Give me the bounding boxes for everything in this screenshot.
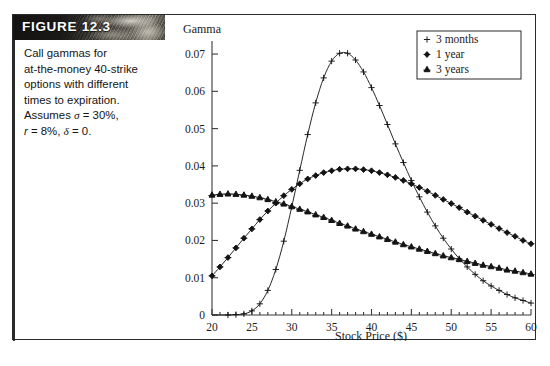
data-point: [520, 297, 526, 303]
marker-plus-glyph: [488, 283, 494, 289]
data-point: [352, 166, 359, 172]
marker-plus-glyph: [392, 141, 398, 147]
data-point: [528, 300, 534, 306]
y-axis-title: Gamma: [183, 22, 222, 36]
marker-plus-glyph: [416, 194, 422, 200]
data-point: [400, 178, 407, 184]
data-point: [265, 287, 271, 293]
data-point: [249, 308, 255, 314]
x-axis-tick-label: 45: [406, 321, 418, 333]
data-point: [336, 166, 343, 172]
y-axis-tick-label: 0.03: [185, 197, 205, 209]
data-point: [312, 173, 319, 179]
data-point: [504, 291, 510, 297]
data-point: [225, 255, 232, 261]
legend-label: 3 months: [436, 33, 479, 45]
y-axis-tick-label: 0: [199, 309, 205, 321]
marker-plus-glyph: [496, 287, 502, 293]
data-point: [328, 168, 335, 174]
data-point: [440, 235, 446, 241]
x-axis-tick-label: 50: [446, 321, 458, 333]
marker-plus-glyph: [504, 291, 510, 297]
data-point: [416, 194, 422, 200]
data-point: [281, 238, 287, 244]
data-point: [344, 166, 351, 172]
marker-plus-glyph: [225, 312, 231, 318]
x-axis-title: Stock Price ($): [335, 329, 407, 341]
assumes-word: Assumes: [24, 109, 74, 121]
data-point: [360, 69, 366, 75]
data-point: [464, 209, 471, 215]
data-point: [248, 226, 255, 232]
series-1-year: [209, 166, 535, 279]
data-point: [273, 266, 279, 272]
data-point: [432, 192, 439, 198]
data-point: [424, 209, 430, 215]
data-point: [241, 311, 247, 317]
series-3-months: [212, 50, 534, 318]
series-layer: [208, 50, 534, 318]
x-axis-tick-label: 30: [286, 321, 298, 333]
y-axis-ticks: 00.010.020.030.040.050.060.07: [185, 48, 218, 321]
data-point: [344, 50, 350, 56]
data-point: [376, 170, 383, 176]
marker-plus-glyph: [528, 300, 534, 306]
marker-plus-glyph: [305, 131, 311, 137]
data-point: [512, 295, 518, 301]
data-point: [337, 50, 343, 56]
data-point: [224, 191, 231, 196]
data-point: [488, 222, 495, 228]
marker-plus-glyph: [321, 75, 327, 81]
y-axis-tick-label: 0.06: [185, 85, 205, 97]
r-value: = 8%,: [28, 125, 64, 137]
y-axis-tick-label: 0.05: [185, 123, 205, 135]
figure-number-label: FIGURE 12.3: [22, 19, 111, 34]
figure-caption-block: FIGURE 12.3 Call gammas for at-the-money…: [13, 15, 165, 341]
delta-value: = 0.: [69, 125, 91, 137]
gamma-chart: Gamma 00.010.020.030.040.050.060.07 2025…: [165, 15, 537, 341]
data-point: [392, 141, 398, 147]
y-axis-tick-label: 0.02: [185, 234, 205, 246]
data-point: [432, 223, 438, 229]
data-point: [297, 167, 303, 173]
data-point: [241, 235, 248, 241]
marker-plus-glyph: [344, 50, 350, 56]
data-point: [424, 188, 431, 194]
data-point: [392, 175, 399, 181]
data-point: [480, 217, 487, 223]
marker-plus-glyph: [329, 58, 335, 64]
marker-plus-glyph: [297, 167, 303, 173]
data-point: [520, 238, 527, 244]
x-axis-tick-label: 25: [246, 321, 258, 333]
data-point: [225, 312, 231, 318]
caption-vertical-rule: [13, 40, 15, 341]
data-point: [321, 75, 327, 81]
data-point: [528, 241, 535, 247]
marker-plus-glyph: [376, 102, 382, 108]
marker-plus-glyph: [424, 209, 430, 215]
y-axis-tick-label: 0.04: [185, 160, 205, 172]
marker-plus-glyph: [360, 69, 366, 75]
caption-line-4: times to expiration.: [24, 93, 164, 109]
data-point: [472, 213, 479, 219]
caption-line-2: at-the-money 40-strike: [24, 62, 164, 78]
marker-plus-glyph: [440, 235, 446, 241]
figure-caption-text: Call gammas for at-the-money 40-strike o…: [24, 46, 164, 140]
chart-legend[interactable]: 3 months1 year3 years: [417, 31, 521, 79]
marker-plus-glyph: [313, 100, 319, 106]
data-point: [400, 159, 406, 165]
x-axis-tick-label: 20: [206, 321, 218, 333]
marker-plus-glyph: [281, 238, 287, 244]
data-point: [512, 233, 519, 239]
x-axis-tick-label: 55: [485, 321, 497, 333]
marker-plus-glyph: [241, 311, 247, 317]
data-point: [305, 131, 311, 137]
marker-plus-glyph: [273, 266, 279, 272]
series-3-years: [208, 191, 534, 277]
data-point: [496, 287, 502, 293]
legend-label: 3 years: [436, 63, 469, 76]
caption-assumption-volatility: Assumes σ = 30%,: [24, 108, 164, 124]
data-point: [368, 168, 375, 174]
marker-plus-glyph: [384, 121, 390, 127]
data-point: [384, 121, 390, 127]
